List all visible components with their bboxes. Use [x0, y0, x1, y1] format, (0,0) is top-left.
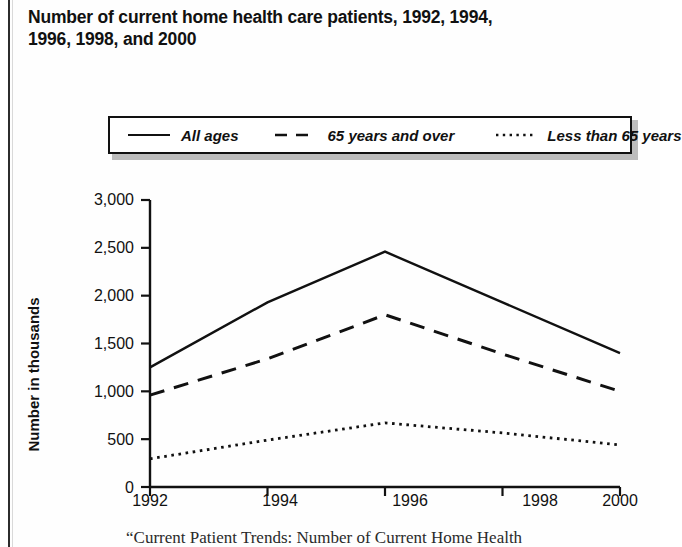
figure-caption: “Current Patient Trends: Number of Curre…	[126, 528, 646, 547]
chart-plot-area: Number in thousands 3,000 2,500 2,000 1,…	[0, 170, 660, 520]
line-chart-graphic	[0, 170, 660, 520]
legend-label-all-ages: All ages	[181, 127, 239, 144]
legend-label-65-and-over: 65 years and over	[328, 127, 455, 144]
chart-title-line-2: 1996, 1998, and 2000	[28, 28, 628, 50]
series-line-solid	[150, 252, 620, 368]
series-line-dotted	[150, 423, 620, 459]
solid-line-sample	[128, 129, 170, 141]
legend-item-less-than-65[interactable]: Less than 65 years	[494, 118, 681, 152]
chart-title-line-1: Number of current home health care patie…	[28, 7, 492, 27]
series-line-dashed	[150, 315, 620, 395]
legend-item-all-ages[interactable]: All ages	[128, 118, 239, 152]
chart-legend: All ages 65 years and over Less than 65 …	[108, 116, 632, 154]
dashed-line-sample	[275, 129, 317, 141]
chart-title: Number of current home health care patie…	[28, 6, 628, 50]
legend-label-less-than-65: Less than 65 years	[547, 127, 681, 144]
legend-item-65-and-over[interactable]: 65 years and over	[275, 118, 455, 152]
dotted-line-sample	[494, 129, 536, 141]
